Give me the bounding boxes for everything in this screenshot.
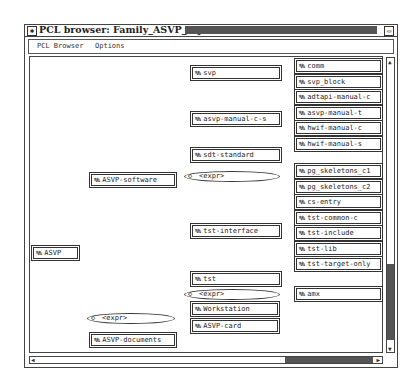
family-icon: %%: [195, 322, 200, 329]
node-svp-block[interactable]: %%svp_block: [296, 76, 381, 88]
node-adtapi-manual-c[interactable]: %%adtapi-manual-c: [296, 91, 381, 103]
menu-bar: PCL Browser Options: [28, 39, 394, 54]
family-icon: %%: [299, 245, 304, 252]
menu-options[interactable]: Options: [95, 42, 125, 50]
node-tst[interactable]: %%tst: [192, 273, 280, 285]
family-icon: %%: [94, 336, 99, 343]
node-workstation[interactable]: %%Workstation: [192, 303, 278, 315]
scroll-up-icon[interactable]: ▲: [388, 58, 392, 65]
family-icon: %%: [94, 176, 99, 183]
horizontal-scroll-thumb[interactable]: [285, 357, 373, 363]
scroll-right-icon[interactable]: ▶: [376, 356, 380, 363]
family-icon: %%: [195, 69, 200, 76]
family-icon: %%: [195, 275, 200, 282]
scroll-down-icon[interactable]: ▼: [388, 345, 392, 352]
family-icon: %%: [299, 229, 304, 236]
family-icon: %%: [299, 260, 304, 267]
horizontal-scrollbar[interactable]: ◀ ▶: [29, 356, 383, 364]
family-icon: %%: [195, 151, 200, 158]
node-sdt-standard[interactable]: %%sdt-standard: [192, 149, 280, 161]
family-icon: %%: [299, 290, 304, 297]
family-icon: %%: [299, 167, 304, 174]
node-svp[interactable]: %%svp: [192, 67, 280, 79]
node-asvp-manual-c-s[interactable]: %%asvp-manual-c-s: [192, 113, 280, 125]
expr-node[interactable]: ◇<expr>: [184, 289, 280, 300]
node-tst-include[interactable]: %%tst-include: [296, 227, 381, 239]
expr-node[interactable]: ◇<expr>: [184, 171, 280, 182]
family-icon: %%: [195, 115, 200, 122]
node-hwif-manual-s[interactable]: %%hwif-manual-s: [296, 138, 381, 150]
node-amx[interactable]: %%amx: [296, 288, 381, 300]
diamond-icon: ◇: [91, 314, 95, 323]
family-icon: %%: [195, 305, 200, 312]
node-tst-lib[interactable]: %%tst-lib: [296, 243, 381, 255]
diamond-icon: ◇: [188, 172, 192, 181]
scroll-left-icon[interactable]: ◀: [31, 356, 35, 363]
node-asvp-documents[interactable]: %%ASVP-documents: [91, 334, 175, 346]
title-stripe: [185, 26, 377, 34]
family-icon: %%: [299, 198, 304, 205]
family-icon: %%: [299, 183, 304, 190]
window-title: PCL browser: Family_ASVP_top: [39, 24, 204, 35]
expr-node[interactable]: ◇<expr>: [87, 313, 175, 324]
family-icon: %%: [299, 62, 304, 69]
family-icon: %%: [299, 124, 304, 131]
node-asvp[interactable]: %%ASVP: [33, 247, 78, 259]
family-icon: %%: [36, 249, 41, 256]
family-icon: %%: [299, 214, 304, 221]
vertical-scroll-thumb[interactable]: [387, 264, 394, 340]
family-icon: %%: [299, 109, 304, 116]
menu-pcl-browser[interactable]: PCL Browser: [37, 42, 83, 50]
title-bar[interactable]: ✱ PCL browser: Family_ASVP_top ▭: [25, 25, 397, 37]
node-pg-skeletons-c1[interactable]: %%pg_skeletons_c1: [296, 165, 381, 177]
vertical-scrollbar[interactable]: ▲ ▼: [386, 57, 395, 353]
node-pg-skeletons-c2[interactable]: %%pg_skeletons_c2: [296, 181, 381, 193]
node-comm[interactable]: %%comm: [296, 60, 381, 72]
node-asvp-card[interactable]: %%ASVP-card: [192, 320, 278, 332]
node-tst-common-c[interactable]: %%tst-common-c: [296, 212, 381, 224]
maximize-icon[interactable]: ▭: [384, 26, 394, 36]
node-asvp-manual-t[interactable]: %%asvp-manual-t: [296, 107, 381, 119]
diamond-icon: ◇: [188, 290, 192, 299]
node-hwif-manual-c[interactable]: %%hwif-manual-c: [296, 122, 381, 134]
node-asvp-software[interactable]: %%ASVP-software: [91, 174, 175, 186]
window-menu-icon[interactable]: ✱: [27, 26, 37, 36]
family-icon: %%: [299, 78, 304, 85]
family-icon: %%: [299, 140, 304, 147]
family-icon: %%: [195, 227, 200, 234]
family-icon: %%: [299, 93, 304, 100]
node-cs-entry[interactable]: %%cs-entry: [296, 196, 381, 208]
node-tst-target-only[interactable]: %%tst-target-only: [296, 258, 381, 270]
node-tst-interface[interactable]: %%tst-interface: [192, 225, 280, 237]
